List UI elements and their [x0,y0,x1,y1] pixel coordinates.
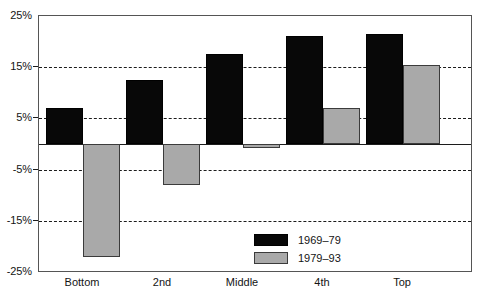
y-axis-label: 5% [16,111,32,123]
plot-area: 1969–79 1979–93 [38,15,472,272]
legend-swatch-icon [254,234,288,246]
y-axis: 25% 15% 5% -5% -15% -25% [0,0,38,301]
x-axis-label-bottom: Bottom [65,276,100,288]
legend: 1969–79 1979–93 [254,231,341,267]
bar-1969-79-2nd [126,80,163,144]
x-axis-label-4th: 4th [314,276,329,288]
y-axis-label: -15% [7,214,32,226]
bar-1979-93-2nd [163,144,200,185]
x-axis-label-top: Top [393,276,411,288]
legend-item-label: 1969–79 [298,234,341,246]
legend-item-label: 1979–93 [298,252,341,264]
bar-1979-93-bottom [83,144,120,257]
y-axis-label: 25% [10,9,32,21]
bar-1969-79-bottom [46,108,83,144]
clipped-title-remnant [34,0,234,3]
legend-item: 1969–79 [254,231,341,249]
y-axis-label: -25% [7,265,32,277]
legend-item: 1979–93 [254,249,341,267]
x-axis: Bottom 2nd Middle 4th Top [38,276,472,298]
bar-1979-93-4th [323,108,360,144]
bar-1969-79-top [366,34,403,144]
legend-swatch-icon [254,252,288,264]
x-axis-label-2nd: 2nd [153,276,171,288]
bar-1969-79-middle [206,54,243,144]
chart-screenshot: 25% 15% 5% -5% -15% -25% [0,0,478,301]
y-axis-label: -5% [13,163,32,175]
bar-1979-93-top [403,65,440,144]
bar-1969-79-4th [286,36,323,144]
bar-1979-93-middle [243,144,280,148]
x-axis-label-middle: Middle [226,276,258,288]
y-axis-label: 15% [10,60,32,72]
